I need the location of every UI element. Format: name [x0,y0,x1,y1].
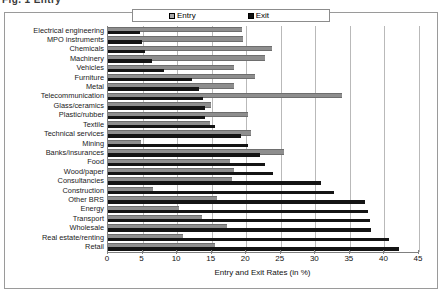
bar-row [108,167,419,176]
category-label: Vehicles [8,64,104,72]
category-label: Telecommunication [8,92,104,100]
tick-label: 30 [310,254,319,263]
bar-row [108,214,419,223]
bar-exit [108,69,164,72]
figure-caption-text: Fig. 1 Entry [2,0,442,4]
bar-rows [108,26,419,252]
bar-exit [108,238,389,241]
tick-label: 0 [105,254,109,263]
bar-row [108,195,419,204]
category-label: Metal [8,83,104,91]
bar-row [108,139,419,148]
category-axis-labels: Electrical engineeringMPO instrumentsChe… [8,26,104,252]
chart-legend: Entry Exit [132,9,330,22]
tick-label: 5 [139,254,143,263]
bar-row [108,129,419,138]
category-label: Glass/ceramics [8,102,104,110]
bar-exit [108,153,260,156]
bar-row [108,101,419,110]
category-label: Wood/paper [8,168,104,176]
bar-exit [108,144,248,147]
bar-exit [108,163,265,166]
legend-item-entry: Entry [169,12,196,20]
bar-row [108,54,419,63]
bar-exit [108,31,140,34]
bar-exit [108,59,152,62]
category-label: Consultancies [8,177,104,185]
bar-row [108,177,419,186]
bar-exit [108,78,192,81]
category-label: Electrical engineering [8,27,104,35]
category-label: Transport [8,215,104,223]
tick-label: 35 [344,254,353,263]
category-label: Plastic/rubber [8,111,104,119]
tick-label: 10 [172,254,181,263]
legend-item-exit: Exit [248,12,269,20]
bar-row [108,158,419,167]
gridline [419,26,420,252]
x-axis-title: Entry and Exit Rates (in %) [107,268,418,277]
bar-exit [108,134,241,137]
value-axis-ticks: 051015202530354045 [107,254,418,266]
category-label: Food [8,158,104,166]
bar-exit [108,210,368,213]
bar-row [108,64,419,73]
legend-label-exit: Exit [256,12,269,20]
category-label: Furniture [8,74,104,82]
bar-exit [108,219,370,222]
bar-exit [108,200,365,203]
bar-row [108,224,419,233]
tick-label: 40 [379,254,388,263]
bar-exit [108,50,145,53]
bar-row [108,26,419,35]
bar-exit [108,172,273,175]
bar-row [108,205,419,214]
bar-exit [108,247,399,250]
tick-label: 20 [241,254,250,263]
category-label: Construction [8,187,104,195]
category-label: Energy [8,205,104,213]
bar-row [108,148,419,157]
bar-row [108,111,419,120]
bar-row [108,35,419,44]
bar-row [108,73,419,82]
bar-row [108,186,419,195]
legend-label-entry: Entry [177,12,196,20]
bar-exit [108,181,321,184]
category-label: Retail [8,243,104,251]
bar-row [108,120,419,129]
bar-row [108,233,419,242]
bar-row [108,82,419,91]
legend-swatch-exit-icon [248,13,254,19]
bar-exit [108,125,215,128]
bar-row [108,92,419,101]
bar-exit [108,97,203,100]
tick-label: 15 [206,254,215,263]
bar-row [108,45,419,54]
bar-exit [108,191,334,194]
category-label: Chemicals [8,45,104,53]
category-label: Mining [8,140,104,148]
legend-swatch-entry-icon [169,13,175,19]
chart-page: Fig. 1 Entry Entry Exit Electrical engin… [0,0,442,296]
category-label: Other BRS [8,196,104,204]
category-label: Wholesale [8,224,104,232]
bar-row [108,242,419,251]
tick-label: 45 [414,254,423,263]
category-label: Technical services [8,130,104,138]
bar-exit [108,87,199,90]
category-label: Banks/insurances [8,149,104,157]
category-label: Real estate/renting [8,234,104,242]
category-label: Textile [8,121,104,129]
category-label: MPO instruments [8,36,104,44]
bar-exit [108,228,371,231]
bar-exit [108,106,205,109]
plot-area [107,26,419,253]
bar-exit [108,116,205,119]
category-label: Machinery [8,55,104,63]
bar-exit [108,40,142,43]
tick-label: 25 [275,254,284,263]
